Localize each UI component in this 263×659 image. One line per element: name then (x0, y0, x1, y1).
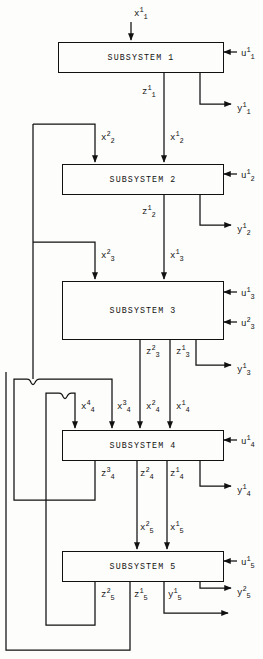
block-subsystem-1-label: SUBSYSTEM 1 (108, 53, 175, 62)
wire-x2-2 (33, 124, 95, 162)
block-subsystem-5[interactable]: SUBSYSTEM 5 (62, 551, 224, 582)
label-x5-2: x25 (140, 524, 154, 533)
label-x1-1: x11 (134, 10, 148, 19)
label-z4-3: z34 (101, 470, 115, 479)
block-subsystem-4[interactable]: SUBSYSTEM 4 (62, 430, 224, 461)
label-z1-1: z11 (142, 88, 156, 97)
block-subsystem-3[interactable]: SUBSYSTEM 3 (62, 281, 224, 340)
label-y5-2: y25 (237, 589, 251, 598)
wire-x3-2 (33, 242, 95, 279)
label-x4-3: x34 (117, 403, 131, 412)
block-subsystem-5-label: SUBSYSTEM 5 (110, 562, 177, 571)
block-subsystem-2[interactable]: SUBSYSTEM 2 (62, 164, 224, 195)
label-z3-2: z23 (146, 348, 160, 357)
wire-y1-1 (200, 71, 231, 104)
label-x2-2: x22 (101, 134, 115, 143)
label-x2-1: x12 (170, 134, 184, 143)
wire-z5-2-to-x4-4b (46, 393, 95, 625)
label-x4-1: x14 (176, 403, 190, 412)
block-subsystem-3-label: SUBSYSTEM 3 (110, 306, 177, 315)
label-z2-1: z12 (142, 208, 156, 217)
label-x3-1: x13 (170, 252, 184, 261)
wire-y2-1 (200, 193, 231, 225)
label-x5-1: x15 (170, 524, 184, 533)
block-subsystem-2-label: SUBSYSTEM 2 (110, 175, 177, 184)
label-y2-1: y12 (237, 226, 251, 235)
label-x3-2: x23 (101, 252, 115, 261)
wire-y3-1 (196, 338, 231, 365)
block-diagram-canvas: SUBSYSTEM 1 SUBSYSTEM 2 SUBSYSTEM 3 SUBS… (0, 0, 263, 659)
label-u3-1: u13 (241, 290, 255, 299)
label-x4-4: x44 (81, 403, 95, 412)
label-z5-2: z25 (101, 591, 115, 600)
label-y4-1: y14 (237, 487, 251, 496)
label-z5-1: z15 (134, 591, 148, 600)
label-u1-1: u11 (241, 50, 255, 59)
label-y3-1: y13 (237, 366, 251, 375)
block-subsystem-4-label: SUBSYSTEM 4 (110, 441, 177, 450)
label-u5-1: u15 (241, 559, 255, 568)
label-z4-2: z24 (140, 470, 154, 479)
label-y1-1: y11 (237, 105, 251, 114)
block-subsystem-1[interactable]: SUBSYSTEM 1 (58, 42, 224, 73)
label-z3-1: z13 (176, 348, 190, 357)
label-u2-1: u12 (241, 172, 255, 181)
label-x4-2: x24 (146, 403, 160, 412)
label-z4-1: z14 (170, 470, 184, 479)
label-y5-1: y15 (168, 591, 182, 600)
label-u3-2: u23 (241, 320, 255, 329)
label-u4-1: u14 (241, 438, 255, 447)
wire-y4-1 (200, 459, 231, 486)
